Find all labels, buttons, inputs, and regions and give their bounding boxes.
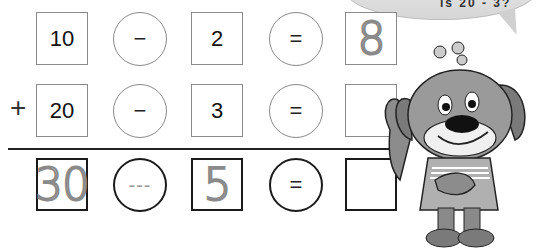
equals-circle-row3: =: [269, 158, 323, 212]
subtrahend-box-row3: 5: [191, 158, 243, 211]
equals-circle-row2: =: [269, 84, 323, 138]
operand-box-row2: 20: [36, 84, 88, 137]
dog-mascot-illustration: [380, 40, 539, 248]
equals-circle-row1: =: [269, 12, 323, 66]
traced-minus: ---: [129, 174, 152, 197]
traced-operand: 30: [35, 159, 89, 210]
traced-subtrahend: 5: [204, 159, 231, 210]
speech-bubble-tail: [497, 8, 520, 37]
operand-box-row3: 30: [36, 158, 88, 211]
plus-sign: +: [10, 92, 26, 124]
subtrahend-box-row2: 3: [191, 84, 243, 137]
operator-circle-row2: −: [113, 84, 167, 138]
operand-box-row1: 10: [36, 12, 88, 65]
subtrahend-box-row1: 2: [191, 12, 243, 65]
operator-circle-row3: ---: [113, 158, 167, 212]
speech-bubble-text: is 20 - 3?: [440, 0, 511, 10]
operator-circle-row1: −: [113, 12, 167, 66]
sum-divider-line: [8, 148, 398, 150]
